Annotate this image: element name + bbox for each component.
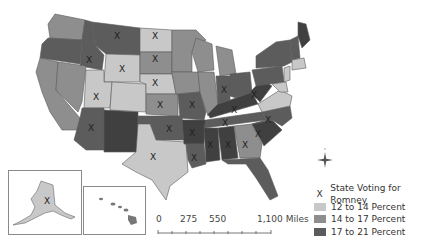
svg-text:X: X [152,31,158,41]
svg-text:X: X [255,129,261,139]
compass-rose-icon [317,148,333,168]
legend-item-romney: X State Voting for Romney [314,188,434,201]
scale-bar: 0 275 550 1,100 Miles [153,214,323,242]
swatch-14-17 [314,215,326,223]
x-marker-icon: X [314,188,325,201]
legend: X State Voting for Romney 12 to 14 Perce… [314,188,434,238]
legend-item-17-21: 17 to 21 Percent [314,226,434,239]
state-maine [298,22,310,48]
svg-text:X: X [189,100,195,110]
legend-label: 12 to 14 Percent [331,201,405,214]
scale-label-550: 550 [209,214,226,224]
svg-text:X: X [119,64,125,74]
svg-text:X: X [221,85,227,95]
svg-text:X: X [189,128,195,138]
svg-text:X: X [152,54,158,64]
state-vermont-nh [290,36,300,60]
svg-text:X: X [93,92,99,102]
svg-text:X: X [191,153,197,163]
svg-text:X: X [150,152,156,162]
state-new-england-south [292,58,306,70]
svg-text:X: X [152,78,158,88]
scale-label-1100-miles: 1,100 Miles [257,214,309,224]
scale-label-275: 275 [180,214,197,224]
svg-text:X: X [251,90,257,100]
state-wisconsin [192,38,214,72]
svg-text:X: X [242,140,248,150]
svg-text:X: X [166,124,172,134]
legend-label: 14 to 17 Percent [331,213,405,226]
state-new-mexico [104,110,138,152]
state-michigan [216,46,236,76]
svg-text:X: X [86,55,92,65]
hawaii-shape [84,187,145,234]
state-colorado [110,82,146,112]
svg-text:X: X [88,123,94,133]
state-new-york [256,40,292,68]
state-washington [48,14,85,40]
hawaii-inset [83,186,146,235]
state-florida [222,158,278,200]
legend-label: 17 to 21 Percent [331,226,405,239]
state-maryland-delaware [272,82,288,92]
svg-text:X: X [265,115,271,125]
scale-label-0: 0 [156,214,162,224]
alaska-shape: X [9,171,81,234]
svg-text:X: X [225,140,231,150]
svg-text:X: X [157,100,163,110]
svg-text:X: X [207,140,213,150]
state-iowa [172,72,200,94]
svg-text:X: X [114,31,120,41]
state-new-jersey [284,66,290,82]
swatch-12-14 [314,203,326,211]
alaska-inset: X [8,170,82,235]
legend-item-14-17: 14 to 17 Percent [314,213,434,226]
swatch-17-21 [314,228,326,236]
svg-text:X: X [222,118,228,128]
svg-text:X: X [44,196,50,206]
svg-text:X: X [231,105,237,115]
